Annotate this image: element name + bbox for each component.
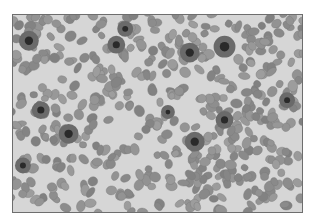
- micrograph-frame: [12, 14, 303, 213]
- blood-smear-image: [13, 15, 302, 212]
